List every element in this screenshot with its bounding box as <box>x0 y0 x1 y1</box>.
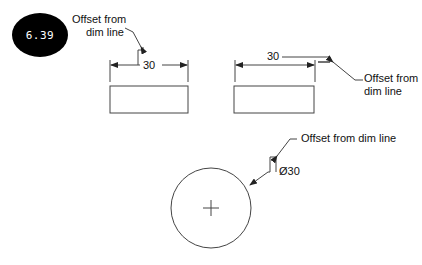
circle-diameter-value: Ø30 <box>279 165 300 178</box>
left-callout-line1: Offset from <box>72 13 126 26</box>
figure-number-badge: 6.39 <box>12 13 68 57</box>
right-example-drawing <box>234 57 363 113</box>
circle-callout: Offset from dim line <box>301 132 396 145</box>
figure-6-39: 6.39 Offset from dim line 30 30 Offset f… <box>0 0 422 265</box>
figure-number: 6.39 <box>26 29 55 42</box>
circle-example-drawing <box>171 139 297 248</box>
left-callout-line2: dim line <box>86 26 124 39</box>
left-dimension-value: 30 <box>142 59 156 71</box>
right-dimension-value: 30 <box>266 50 280 62</box>
right-callout-line2: dim line <box>364 85 402 98</box>
right-callout-line1: Offset from <box>364 72 418 85</box>
